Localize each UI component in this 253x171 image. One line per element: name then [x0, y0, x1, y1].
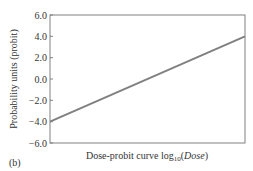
dose-probit-chart: 6.0 4.0 2.0 0.0 −2.0 −4.0 −6.0 Probabili… [0, 0, 253, 171]
y-tick-label: 0.0 [35, 74, 48, 85]
panel-label: (b) [9, 157, 21, 169]
y-tick-label: 4.0 [35, 31, 48, 42]
y-axis-title: Probability units (probit) [8, 29, 20, 128]
y-tick-label: −6.0 [29, 138, 47, 149]
y-tick-label: 2.0 [35, 52, 48, 63]
y-tick-label: −4.0 [29, 116, 47, 127]
x-axis-title: Dose-probit curve log10(Dose) [86, 150, 208, 163]
probit-line [50, 36, 245, 121]
y-axis: 6.0 4.0 2.0 0.0 −2.0 −4.0 −6.0 [29, 10, 53, 149]
y-tick-label: 6.0 [35, 10, 48, 21]
y-tick-label: −2.0 [29, 95, 47, 106]
